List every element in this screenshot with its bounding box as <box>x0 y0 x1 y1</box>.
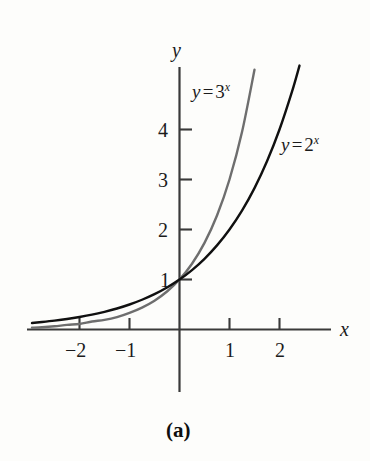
curve-y-equals-3-to-the-x <box>32 70 255 328</box>
x-tick-label-2: 2 <box>275 340 285 360</box>
y-tick-label-4: 4 <box>158 120 168 140</box>
curve-label-2-exponent: x <box>314 134 319 147</box>
x-tick-label-minus-2: −2 <box>65 340 86 360</box>
x-tick-label-minus-1: −1 <box>115 340 136 360</box>
y-axis-label: y <box>172 40 181 60</box>
curve-label-2-to-the-x: y=2x <box>281 135 319 154</box>
curve-label-3-exponent: x <box>225 81 230 94</box>
curve-label-2-operator: = <box>289 134 304 155</box>
curve-label-3-operator: = <box>200 81 215 102</box>
x-tick-label-1: 1 <box>225 340 235 360</box>
curve-label-2-base: 2 <box>304 134 314 155</box>
y-tick-label-2: 2 <box>158 220 168 240</box>
y-tick-label-1: 1 <box>160 270 170 290</box>
curve-label-3-base: 3 <box>215 81 225 102</box>
figure-container: y x 1 2 3 4 −2 −1 1 2 y=3x y=2x (a) <box>0 0 370 461</box>
x-axis-label: x <box>340 319 349 339</box>
exponential-functions-plot <box>0 0 370 461</box>
figure-caption: (a) <box>166 418 191 443</box>
curve-label-3-to-the-x: y=3x <box>192 82 230 101</box>
y-axis-ticks <box>179 130 192 280</box>
y-tick-label-3: 3 <box>158 170 168 190</box>
